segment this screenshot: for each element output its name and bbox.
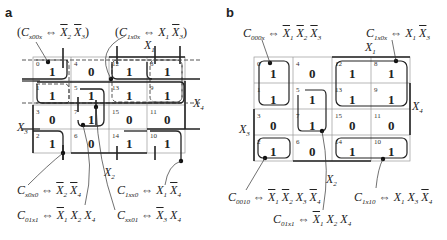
cell-index: 9 [374, 86, 378, 94]
cell-value: 1 [126, 88, 133, 103]
karnaugh-diagram: 0 1 4 0 12 1 8 1 1 1 5 1 13 1 9 1 3 0 7 … [0, 0, 447, 240]
cell-value: 1 [349, 66, 356, 81]
cell-index: 10 [374, 138, 382, 146]
cell-value: 1 [49, 64, 56, 79]
cell-index: 9 [150, 84, 154, 92]
cell-index: 4 [296, 60, 300, 68]
cell-value: 1 [88, 88, 95, 103]
cell-index: 15 [112, 108, 120, 116]
cell-index: 3 [257, 112, 261, 120]
cell-value: 1 [270, 144, 277, 159]
panel-b-grid [254, 57, 410, 161]
cell-index: 3 [36, 108, 40, 116]
cell-value: 1 [49, 136, 56, 151]
panel-b-groups [258, 61, 407, 158]
cell-index: 11 [150, 108, 157, 116]
cell-value: 1 [164, 88, 171, 103]
cell-value: 1 [126, 64, 133, 79]
cell-value: 1 [309, 92, 316, 107]
cell-value: 1 [164, 136, 171, 151]
cell-value: 0 [126, 112, 133, 127]
cell-value: 1 [349, 144, 356, 159]
cell-value: 0 [88, 136, 95, 151]
cell-value: 1 [88, 112, 95, 127]
cell-index: 13 [112, 84, 120, 92]
cell-index: 6 [74, 132, 78, 140]
cell-value: 0 [88, 64, 95, 79]
cell-value: 1 [126, 136, 133, 151]
cell-value: 1 [270, 66, 277, 81]
cell-value: 0 [49, 112, 56, 127]
cell-index: 14 [112, 132, 120, 140]
cell-value: 1 [388, 92, 395, 107]
cell-index: 5 [74, 84, 78, 92]
cell-index: 0 [36, 60, 40, 68]
cell-value: 0 [349, 118, 356, 133]
cell-index: 11 [374, 112, 381, 120]
cell-value: 1 [388, 66, 395, 81]
cell-value: 1 [388, 144, 395, 159]
cell-index: 5 [296, 86, 300, 94]
cell-value: 0 [309, 144, 316, 159]
cell-value: 1 [349, 92, 356, 107]
cell-index: 2 [36, 132, 40, 140]
cell-value: 0 [164, 112, 171, 127]
cell-value: 0 [309, 66, 316, 81]
cell-index: 10 [150, 132, 158, 140]
cell-index: 4 [74, 60, 78, 68]
panel-a-grid [33, 57, 185, 153]
cell-value: 0 [388, 118, 395, 133]
cell-index: 6 [296, 138, 300, 146]
cell-value: 0 [270, 118, 277, 133]
cell-index: 15 [335, 112, 343, 120]
cell-value: 1 [49, 88, 56, 103]
cell-value: 1 [164, 64, 171, 79]
